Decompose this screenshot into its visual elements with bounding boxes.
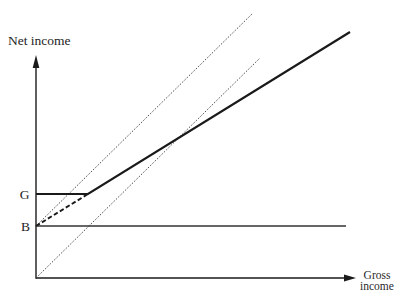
- axes: [33, 55, 356, 282]
- y-axis-label: Net income: [8, 33, 71, 48]
- x-axis-arrow-icon: [344, 274, 356, 281]
- x-axis-label-line2: income: [360, 280, 394, 292]
- y-axis-arrow-icon: [33, 55, 40, 68]
- plot-area: [36, 13, 350, 278]
- y-tick-label-b: B: [21, 219, 30, 234]
- net-income-schedule-line: [36, 32, 350, 194]
- dotted-45-line-origin: [36, 58, 260, 278]
- y-tick-label-g: G: [20, 187, 30, 202]
- net-income-chart: Net income G B Gross income: [0, 0, 401, 304]
- dashed-extension-line: [36, 194, 88, 226]
